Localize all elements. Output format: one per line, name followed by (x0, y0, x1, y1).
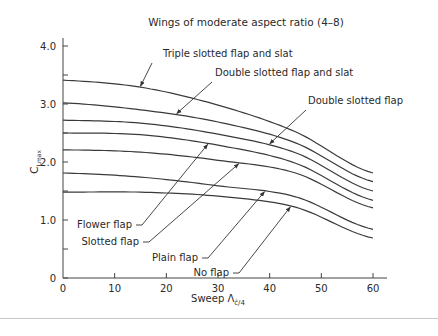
x-axis-label-main: Sweep Λ (191, 293, 234, 304)
annotation-arrow (270, 110, 306, 144)
bottom-divider (0, 318, 438, 319)
annotation-arrow (177, 82, 212, 114)
series-line (63, 120, 373, 191)
annotation-label: No flap (193, 267, 229, 278)
annotation-label: Double slotted flap (308, 95, 403, 106)
x-tick-label: 0 (60, 283, 66, 294)
annotation-label: Slotted flap (81, 236, 139, 247)
y-tick-label: 0 (50, 273, 56, 284)
y-tick-label: 4.0 (40, 41, 56, 52)
annotation-arrow (202, 192, 265, 258)
annotation-label: Flower flap (77, 219, 132, 230)
chart-title: Wings of moderate aspect ratio (4–8) (148, 16, 344, 28)
annotation-arrow (143, 164, 239, 242)
series-line (63, 133, 373, 200)
series-line (63, 192, 373, 238)
y-tick-label: 1.0 (40, 215, 56, 226)
annotation-label: Plain flap (152, 252, 198, 263)
y-tick-label: 2.0 (40, 157, 56, 168)
x-tick-label: 10 (108, 283, 121, 294)
x-tick-label: 50 (315, 283, 328, 294)
annotation-arrow (136, 144, 208, 225)
annotation-arrow (141, 63, 153, 86)
y-axis-label-subscript: Lmax (35, 150, 42, 167)
chart: Wings of moderate aspect ratio (4–8) 01.… (0, 0, 438, 336)
annotation-arrow (233, 207, 290, 273)
y-tick-label: 3.0 (40, 99, 56, 110)
x-axis-label-subscript: c̄/4 (234, 299, 245, 307)
x-axis-label: Sweep Λc̄/4 (191, 293, 245, 307)
annotation-label: Triple slotted flap and slat (162, 48, 293, 59)
x-tick-label: 40 (263, 283, 276, 294)
x-tick-label: 60 (367, 283, 380, 294)
series-line (63, 103, 373, 182)
x-tick-label: 20 (160, 283, 173, 294)
annotation-label: Double slotted flap and slat (215, 67, 353, 78)
y-axis-label: CLmax (28, 150, 42, 175)
